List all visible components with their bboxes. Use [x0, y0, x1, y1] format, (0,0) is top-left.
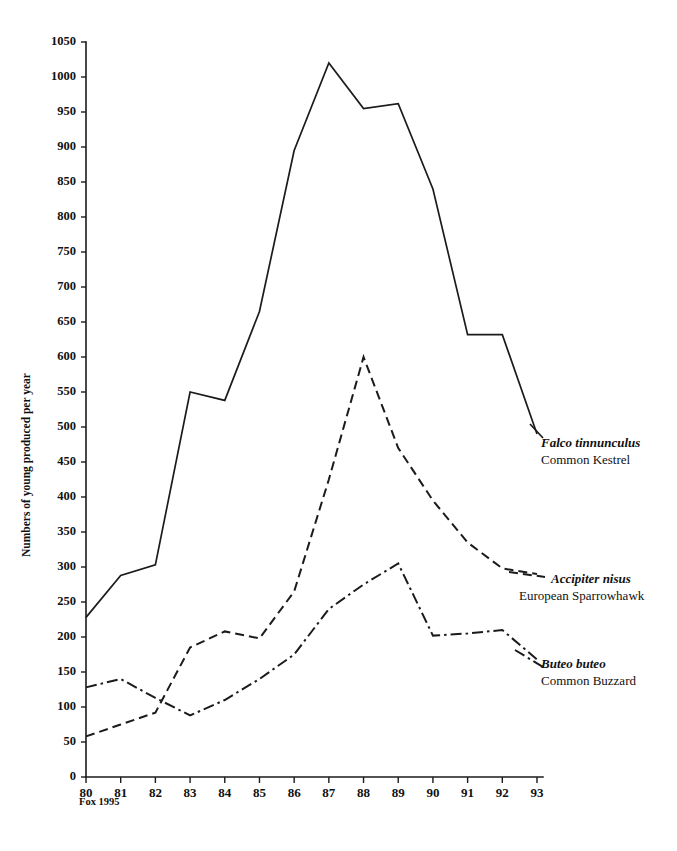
- x-axis-tick-label: 83: [184, 785, 198, 800]
- y-axis-ticks: 0501001502002503003504004505005506006507…: [51, 34, 86, 783]
- y-axis-tick-label: 1000: [51, 69, 76, 83]
- y-axis-tick-label: 0: [70, 769, 76, 783]
- legend-item-common-buzzard: Buteo buteo Common Buzzard: [540, 656, 636, 688]
- y-axis-tick-label: 800: [57, 209, 76, 223]
- x-axis-tick-label: 88: [357, 785, 371, 800]
- x-axis-tick-label: 93: [531, 785, 545, 800]
- legend-common-name-kestrel: Common Kestrel: [541, 452, 631, 467]
- legend-common-name-buzzard: Common Buzzard: [541, 673, 636, 688]
- x-axis-ticks: 8081828384858687888990919293: [80, 777, 545, 800]
- x-axis-tick-label: 86: [288, 785, 302, 800]
- legend-leader-lines: [509, 424, 545, 667]
- source-note: Fox 1995: [79, 796, 120, 807]
- y-axis-tick-label: 850: [57, 174, 76, 188]
- y-axis-title: Numbers of young produced per year: [20, 373, 33, 557]
- legend-scientific-name-kestrel: Falco tinnunculus: [540, 435, 640, 450]
- y-axis-tick-label: 600: [57, 349, 76, 363]
- y-axis-tick-label: 450: [57, 454, 76, 468]
- y-axis-tick-label: 250: [57, 594, 76, 608]
- y-axis-tick-label: 1050: [51, 34, 76, 48]
- y-axis-tick-label: 500: [57, 419, 76, 433]
- x-axis-tick-label: 85: [253, 785, 267, 800]
- legend-scientific-name-sparrowhawk: Accipiter nisus: [550, 571, 631, 586]
- legend-item-common-kestrel: Falco tinnunculus Common Kestrel: [540, 435, 640, 467]
- x-axis-tick-label: 90: [426, 785, 439, 800]
- y-axis-tick-label: 900: [57, 139, 76, 153]
- y-axis-tick-label: 750: [57, 244, 76, 258]
- x-axis-tick-label: 92: [496, 785, 509, 800]
- y-axis-tick-label: 650: [57, 314, 76, 328]
- x-axis-tick-label: 82: [149, 785, 162, 800]
- legend-scientific-name-buzzard: Buteo buteo: [540, 656, 606, 671]
- y-axis-tick-label: 400: [57, 489, 76, 503]
- x-axis-tick-label: 84: [218, 785, 232, 800]
- x-axis-tick-label: 89: [392, 785, 406, 800]
- y-axis-tick-label: 350: [57, 524, 76, 538]
- bird-productivity-line-chart: Numbers of young produced per year 05010…: [0, 0, 677, 851]
- y-axis-tick-label: 550: [57, 384, 76, 398]
- y-axis-tick-label: 300: [57, 559, 76, 573]
- y-axis-tick-label: 100: [57, 699, 76, 713]
- x-axis-tick-label: 91: [461, 785, 474, 800]
- y-axis-tick-label: 200: [57, 629, 76, 643]
- y-axis-tick-label: 50: [64, 734, 77, 748]
- legend-common-name-sparrowhawk: European Sparrowhawk: [519, 588, 645, 603]
- data-series-group: [86, 63, 537, 736]
- chart-svg: Numbers of young produced per year 05010…: [0, 0, 677, 851]
- y-axis-tick-label: 150: [57, 664, 76, 678]
- series-line-european-sparrowhawk: [86, 357, 537, 736]
- x-axis-tick-label: 87: [322, 785, 336, 800]
- y-axis-tick-label: 700: [57, 279, 76, 293]
- series-line-common-buzzard: [86, 564, 537, 716]
- y-axis-tick-label: 950: [57, 104, 76, 118]
